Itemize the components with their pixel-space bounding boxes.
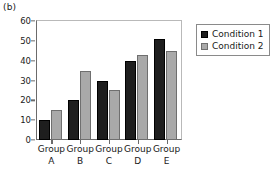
- bars-layer: [37, 21, 181, 140]
- y-axis-tick-label: 20: [20, 95, 31, 105]
- bar: [137, 55, 148, 140]
- x-label-line1: Group: [66, 144, 93, 154]
- x-label-line1: Group: [124, 144, 151, 154]
- legend-item: Condition 1: [201, 28, 264, 40]
- y-axis-tick-label: 30: [20, 76, 31, 86]
- x-axis-tick-label: GroupE: [149, 144, 185, 167]
- y-axis-tick-mark: [31, 100, 35, 101]
- x-label-line1: Group: [153, 144, 180, 154]
- x-label-line1: Group: [38, 144, 65, 154]
- y-axis-tick-label: 40: [20, 56, 31, 66]
- bar: [109, 90, 120, 140]
- bar: [68, 100, 79, 140]
- bar: [51, 110, 62, 140]
- x-label-line2: E: [149, 156, 185, 168]
- chart-legend: Condition 1 Condition 2: [196, 24, 270, 56]
- y-axis-tick-mark: [31, 20, 35, 21]
- y-axis-tick-label: 60: [20, 16, 31, 26]
- bar-group: [37, 21, 66, 140]
- legend-label: Condition 2: [212, 40, 264, 52]
- black-square-swatch-icon: [201, 31, 208, 38]
- legend-label: Condition 1: [212, 28, 264, 40]
- y-axis-tick-mark: [31, 139, 35, 140]
- bar-group: [123, 21, 152, 140]
- y-axis-tick-mark: [31, 120, 35, 121]
- bar: [80, 71, 91, 140]
- bar-group: [95, 21, 124, 140]
- gray-square-swatch-icon: [201, 43, 208, 50]
- bar-chart-figure: (b) 0102030405060 GroupAGroupBGroupCGrou…: [0, 0, 272, 179]
- y-axis-tick-mark: [31, 40, 35, 41]
- y-axis-tick-label: 10: [20, 115, 31, 125]
- bar: [39, 120, 50, 140]
- bar-group: [66, 21, 95, 140]
- bar-group: [152, 21, 181, 140]
- bar: [97, 81, 108, 141]
- y-axis-tick-label: 50: [20, 36, 31, 46]
- panel-label: (b): [3, 2, 16, 12]
- bar: [166, 51, 177, 140]
- legend-item: Condition 2: [201, 40, 264, 52]
- x-label-line1: Group: [95, 144, 122, 154]
- bar: [125, 61, 136, 140]
- y-axis: 0102030405060: [0, 20, 36, 141]
- y-axis-tick-mark: [31, 80, 35, 81]
- y-axis-tick-mark: [31, 60, 35, 61]
- bar: [154, 39, 165, 140]
- x-axis-labels: GroupAGroupBGroupCGroupDGroupE: [37, 144, 181, 178]
